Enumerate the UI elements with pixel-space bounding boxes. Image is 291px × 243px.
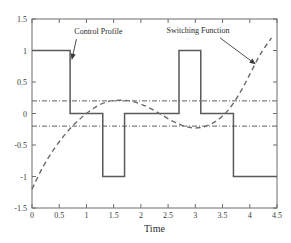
y-tick-label: -1 [20, 173, 27, 182]
y-tick-label: -0.5 [14, 141, 27, 150]
chart-canvas: 00.511.522.533.544.5-1.5-1-0.500.511.5 C… [0, 0, 291, 243]
chart-figure: 00.511.522.533.544.5-1.5-1-0.500.511.5 C… [0, 0, 291, 243]
x-tick-label: 1.5 [109, 211, 119, 220]
x-tick-label: 3.5 [218, 211, 228, 220]
x-tick-label: 4 [248, 211, 252, 220]
y-tick-label: 1 [23, 47, 27, 56]
x-tick-label: 0.5 [54, 211, 64, 220]
x-axis-title: Time [144, 223, 165, 234]
y-tick-label: 1.5 [17, 15, 27, 24]
x-tick-label: 2.5 [163, 211, 173, 220]
x-tick-label: 2 [139, 211, 143, 220]
x-tick-label: 0 [30, 211, 34, 220]
x-tick-label: 4.5 [272, 211, 282, 220]
y-tick-label: 0.5 [17, 78, 27, 87]
x-tick-label: 3 [193, 211, 197, 220]
annotation-label: Switching Function [167, 26, 230, 35]
y-tick-label: 0 [23, 110, 27, 119]
figure-background [0, 0, 291, 243]
y-tick-label: -1.5 [14, 204, 27, 213]
annotation-label: Control Profile [74, 27, 123, 36]
x-tick-label: 1 [84, 211, 88, 220]
